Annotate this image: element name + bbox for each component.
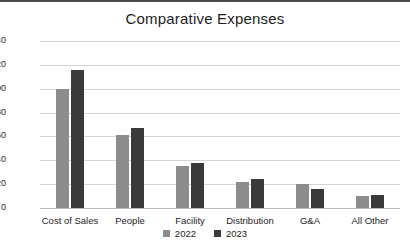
bar[interactable] <box>371 195 384 208</box>
y-axis-tick-label: 60 <box>0 130 6 140</box>
legend-item[interactable]: 2022 <box>163 228 196 239</box>
x-axis-tick-label: All Other <box>352 215 389 226</box>
y-axis-tick-label: 120 <box>0 59 6 69</box>
x-axis-tick-label: Cost of Sales <box>42 215 99 226</box>
bar[interactable] <box>296 184 309 208</box>
legend-label: 2022 <box>175 228 196 239</box>
y-axis-tick-label: 140 <box>0 35 6 45</box>
bar-group <box>280 41 340 208</box>
bar[interactable] <box>311 189 324 208</box>
legend-item[interactable]: 2023 <box>214 228 247 239</box>
bar[interactable] <box>191 163 204 208</box>
x-axis-tick-label: G&A <box>300 215 320 226</box>
x-axis-labels: Cost of SalesPeopleFacilityDistributionG… <box>40 210 400 226</box>
bar-group <box>160 41 220 208</box>
x-axis-tick-label: Facility <box>175 215 205 226</box>
x-axis-tick-label: Distribution <box>226 215 274 226</box>
x-axis-tick-label: People <box>115 215 145 226</box>
bar-group <box>220 41 280 208</box>
bar[interactable] <box>71 70 84 208</box>
y-axis-tick-label: 20 <box>0 178 6 188</box>
gridline <box>40 208 400 209</box>
legend-label: 2023 <box>226 228 247 239</box>
bar[interactable] <box>251 179 264 208</box>
plot-area <box>40 41 400 208</box>
legend-swatch-icon <box>214 230 221 237</box>
bar[interactable] <box>56 89 69 208</box>
chart-title: Comparative Expenses <box>0 10 410 27</box>
bar[interactable] <box>176 166 189 208</box>
chart-card: Comparative Expenses 020406080100120140 … <box>0 0 410 242</box>
y-axis-tick-label: 100 <box>0 83 6 93</box>
bar[interactable] <box>131 128 144 208</box>
bar[interactable] <box>356 196 369 208</box>
chart-legend: 20222023 <box>0 228 410 239</box>
y-axis-tick-label: 0 <box>0 202 6 212</box>
bar[interactable] <box>116 135 129 208</box>
bar-group <box>340 41 400 208</box>
bar[interactable] <box>236 182 249 208</box>
y-axis-tick-label: 80 <box>0 107 6 117</box>
legend-swatch-icon <box>163 230 170 237</box>
bar-group <box>100 41 160 208</box>
bar-group <box>40 41 100 208</box>
y-axis-tick-label: 40 <box>0 154 6 164</box>
